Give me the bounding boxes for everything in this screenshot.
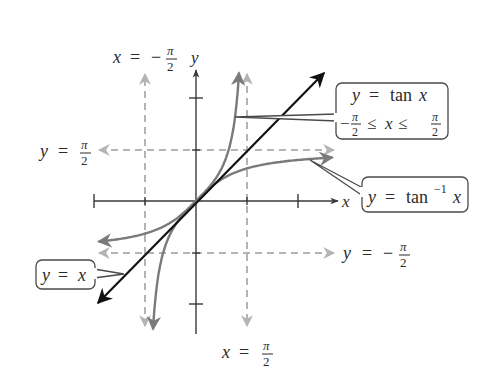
svg-text:2: 2 — [352, 125, 358, 139]
svg-text:y: y — [366, 187, 376, 207]
svg-text:y: y — [40, 265, 50, 285]
svg-text:2: 2 — [400, 255, 407, 270]
label-x-pi-over-2: x = π 2 — [221, 338, 273, 369]
svg-text:tan: tan — [390, 85, 412, 105]
svg-text:=: = — [362, 243, 372, 263]
asymptotes — [99, 74, 334, 326]
axes — [94, 70, 338, 334]
svg-text:π: π — [263, 338, 270, 353]
svg-text:π: π — [81, 137, 88, 152]
callout-identity-pointer — [94, 269, 124, 278]
svg-text:π: π — [400, 239, 407, 254]
svg-text:−: − — [383, 243, 393, 263]
callout-arctan-pointer — [310, 160, 363, 196]
svg-text:x: x — [77, 265, 86, 285]
svg-text:2: 2 — [167, 59, 174, 74]
svg-text:x: x — [112, 47, 121, 67]
svg-text:−: − — [340, 114, 350, 133]
y-axis-label: y — [189, 48, 199, 67]
svg-text:2: 2 — [263, 354, 270, 369]
x-axis-label: x — [341, 192, 350, 211]
function-inverse-diagram: x y x = − π 2 y = π 2 y = − π 2 x = π 2 — [0, 0, 483, 383]
svg-text:π: π — [432, 110, 439, 124]
svg-text:tan: tan — [406, 187, 428, 207]
callout-arctan: y = tan −1 x — [310, 160, 468, 212]
label-x-neg-pi-over-2: x = − π 2 — [112, 43, 177, 74]
svg-text:2: 2 — [432, 125, 438, 139]
svg-text:y: y — [350, 85, 360, 105]
svg-text:x: x — [452, 187, 461, 207]
svg-text:x: x — [418, 85, 427, 105]
svg-text:2: 2 — [81, 153, 88, 168]
svg-text:=: = — [130, 47, 140, 67]
svg-text:y: y — [341, 243, 351, 263]
svg-text:=: = — [369, 85, 379, 105]
svg-text:=: = — [385, 187, 395, 207]
svg-text:≤: ≤ — [367, 114, 376, 133]
svg-text:≤: ≤ — [398, 114, 407, 133]
callout-tan-pointer — [235, 114, 337, 121]
label-y-neg-pi-over-2: y = − π 2 — [341, 239, 410, 270]
identity-line — [98, 73, 324, 303]
svg-text:x: x — [221, 342, 230, 362]
svg-text:−: − — [151, 47, 161, 67]
svg-text:=: = — [58, 141, 68, 161]
svg-text:=: = — [239, 342, 249, 362]
callout-identity: y = x — [36, 260, 124, 289]
svg-text:π: π — [352, 110, 359, 124]
svg-text:=: = — [58, 265, 68, 285]
svg-text:x: x — [384, 114, 393, 133]
svg-text:y: y — [38, 141, 48, 161]
label-y-pi-over-2: y = π 2 — [38, 137, 91, 168]
svg-text:−1: −1 — [434, 182, 447, 196]
svg-text:π: π — [167, 43, 174, 58]
